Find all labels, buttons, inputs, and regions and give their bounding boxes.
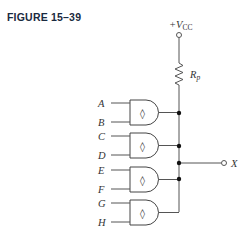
vcc-label: +VCC xyxy=(169,19,193,32)
input-label: D xyxy=(97,150,106,161)
vcc-terminal xyxy=(177,33,182,38)
resistor-rp xyxy=(175,63,183,85)
open-collector-symbol-icon: ◊ xyxy=(140,141,145,153)
input-label: G xyxy=(98,198,106,209)
output-terminal-x xyxy=(222,161,227,166)
open-collector-symbol-icon: ◊ xyxy=(140,208,145,220)
input-label: A xyxy=(97,98,105,109)
output-label: X xyxy=(230,158,238,169)
open-collector-symbol-icon: ◊ xyxy=(140,108,145,120)
input-label: C xyxy=(98,131,106,142)
input-label: F xyxy=(97,184,105,195)
input-label: E xyxy=(97,165,105,176)
rp-label: Rp xyxy=(189,69,200,82)
open-collector-symbol-icon: ◊ xyxy=(140,175,145,187)
input-label: H xyxy=(97,217,107,228)
input-label: B xyxy=(98,117,105,128)
wired-and-circuit: AB◊CD◊EF◊GH◊ +VCC Rp X xyxy=(0,0,250,235)
